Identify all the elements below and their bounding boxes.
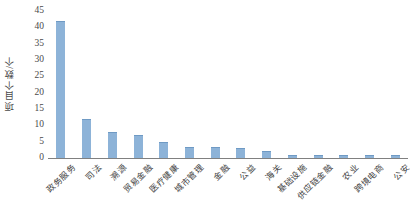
x-tick-label-text: 农业 <box>341 163 360 182</box>
bar <box>159 142 168 158</box>
y-tick-label: 25 <box>35 72 45 82</box>
y-axis-title: 项目个数/个 <box>2 28 18 138</box>
x-tick-label-text: 溯源 <box>110 163 129 182</box>
bar-chart: 项目个数/个 454035302520151050 政务服务司法溯源贸易金融医疗… <box>0 0 417 223</box>
bar <box>134 135 143 158</box>
y-tick-label: 0 <box>39 153 44 163</box>
bar-slot <box>331 11 357 158</box>
x-tick-label-text: 公安 <box>392 163 411 182</box>
x-tick-label-text: 司法 <box>84 163 103 182</box>
y-tick-label: 35 <box>35 39 45 49</box>
bar <box>185 147 194 158</box>
bar-slot <box>305 11 331 158</box>
y-tick-label: 40 <box>35 23 45 33</box>
y-tick-label: 20 <box>35 88 45 98</box>
x-tick-label-text: 海关 <box>264 163 283 182</box>
y-tick-label: 5 <box>39 137 44 147</box>
y-axis-title-text: 项目个数/个 <box>3 55 17 111</box>
bar <box>82 119 91 158</box>
x-tick-label-text: 金融 <box>212 163 231 182</box>
bar-slot <box>125 11 151 158</box>
bar-slot <box>357 11 383 158</box>
bar-slot <box>151 11 177 158</box>
y-axis-tick-labels: 454035302520151050 <box>20 11 44 159</box>
bar-slot <box>228 11 254 158</box>
x-tick-label-text: 政务服务 <box>45 163 76 194</box>
bar-slot <box>279 11 305 158</box>
bar <box>236 148 245 158</box>
y-tick-label: 30 <box>35 55 45 65</box>
bar-series <box>48 11 408 158</box>
y-tick-label: 10 <box>35 121 45 131</box>
x-axis-tick-labels: 政务服务司法溯源贸易金融医疗健康城市管理金融公益海关基础设施供应链金融农业跨境电… <box>48 161 408 223</box>
bar <box>108 132 117 158</box>
bar-slot <box>254 11 280 158</box>
bar-slot <box>99 11 125 158</box>
x-tick-label-text: 公益 <box>238 163 257 182</box>
bar-slot <box>202 11 228 158</box>
y-tick-label: 45 <box>35 6 45 16</box>
bar <box>56 21 65 158</box>
x-axis-line <box>48 158 408 159</box>
bar-slot <box>74 11 100 158</box>
bar-slot <box>382 11 408 158</box>
y-tick-label: 15 <box>35 104 45 114</box>
bar-slot <box>48 11 74 158</box>
bar-slot <box>177 11 203 158</box>
bar <box>211 147 220 158</box>
plot-area <box>48 11 408 159</box>
